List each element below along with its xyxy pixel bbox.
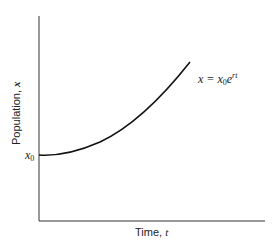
- curve-equation: x = x0ert: [197, 71, 238, 87]
- growth-curve: [39, 62, 190, 155]
- y-axis-label: Population, x: [10, 81, 22, 145]
- x-axis-label: Time, t: [135, 226, 169, 238]
- y-tick-x0: x0: [24, 148, 34, 163]
- chart: x0 x = x0ert Time, t Population, x: [0, 0, 280, 246]
